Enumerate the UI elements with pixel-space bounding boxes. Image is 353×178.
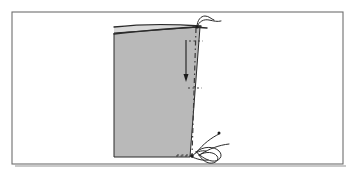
fabric-top-cap-line — [193, 27, 207, 28]
sewing-diagram-svg — [0, 0, 353, 178]
frame-drop-shadow — [15, 165, 346, 167]
knot-tail-dot — [218, 132, 221, 135]
thread-anchor-dot-top — [195, 25, 198, 28]
knot-anchor-dot — [190, 154, 194, 158]
illustration-container: Line drawing of a slanted fabric panel w… — [0, 0, 353, 178]
fabric-panel — [114, 27, 200, 157]
